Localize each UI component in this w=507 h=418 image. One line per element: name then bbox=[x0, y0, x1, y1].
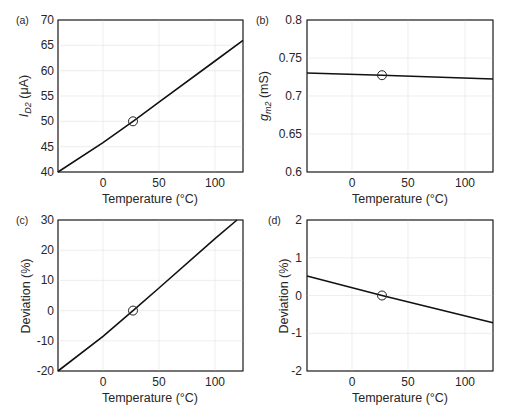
xtick-c-0: 0 bbox=[100, 375, 107, 389]
xtick-d-0: 0 bbox=[349, 375, 356, 389]
ytick-b-4: 0.8 bbox=[285, 13, 302, 27]
ytick-c-4: 20 bbox=[41, 243, 55, 257]
panel-d: -2 -1 0 1 2 0 50 100 Temperature (°C) De… bbox=[268, 213, 493, 405]
xlabel-c: Temperature (°C) bbox=[102, 391, 198, 405]
xlabel-a: Temperature (°C) bbox=[102, 192, 198, 206]
figure: 40 45 50 55 60 65 70 0 50 100 Temperatur… bbox=[0, 0, 507, 418]
panel-c: -20 -10 0 10 20 30 0 50 100 Temperature … bbox=[16, 213, 243, 405]
ylabel-b: gm2 (mS) bbox=[257, 71, 273, 121]
panel-tag-a: (a) bbox=[16, 14, 29, 26]
xtick-a-2: 100 bbox=[205, 176, 225, 190]
ytick-a-4: 60 bbox=[41, 64, 55, 78]
panel-tag-c: (c) bbox=[16, 214, 28, 226]
ytick-b-0: 0.6 bbox=[285, 165, 302, 179]
ytick-a-1: 45 bbox=[41, 140, 55, 154]
panel-b: 0.6 0.65 0.7 0.75 0.8 0 50 100 Temperatu… bbox=[256, 13, 493, 206]
ytick-d-1: -1 bbox=[291, 326, 302, 340]
ytick-d-2: 0 bbox=[295, 289, 302, 303]
ytick-d-3: 1 bbox=[295, 251, 302, 265]
xtick-d-1: 50 bbox=[401, 375, 415, 389]
ytick-d-0: -2 bbox=[291, 364, 302, 378]
ylabel-a: ID2 (μA) bbox=[17, 75, 33, 117]
xtick-c-1: 50 bbox=[152, 375, 166, 389]
ytick-a-6: 70 bbox=[41, 13, 55, 27]
panel-a: 40 45 50 55 60 65 70 0 50 100 Temperatur… bbox=[16, 13, 243, 206]
xtick-b-0: 0 bbox=[349, 176, 356, 190]
ytick-a-2: 50 bbox=[41, 114, 55, 128]
ytick-b-3: 0.75 bbox=[279, 51, 303, 65]
panel-tag-b: (b) bbox=[256, 14, 269, 26]
xlabel-b: Temperature (°C) bbox=[352, 192, 448, 206]
ytick-c-3: 10 bbox=[41, 273, 55, 287]
xtick-a-1: 50 bbox=[152, 176, 166, 190]
xtick-b-2: 100 bbox=[455, 176, 475, 190]
xlabel-d: Temperature (°C) bbox=[352, 391, 448, 405]
ytick-c-2: 0 bbox=[47, 304, 54, 318]
xtick-b-1: 50 bbox=[401, 176, 415, 190]
ytick-a-5: 65 bbox=[41, 38, 55, 52]
ylabel-d: Deviation (%) bbox=[277, 258, 291, 333]
ytick-c-5: 30 bbox=[41, 213, 55, 227]
ylabel-c: Deviation (%) bbox=[19, 258, 33, 333]
ytick-c-0: -20 bbox=[37, 364, 55, 378]
ytick-c-1: -10 bbox=[37, 334, 55, 348]
ytick-b-2: 0.7 bbox=[285, 89, 302, 103]
xtick-c-2: 100 bbox=[205, 375, 225, 389]
ytick-d-4: 2 bbox=[295, 213, 302, 227]
ytick-a-0: 40 bbox=[41, 165, 55, 179]
ytick-a-3: 55 bbox=[41, 89, 55, 103]
panel-tag-d: (d) bbox=[268, 214, 281, 226]
xtick-a-0: 0 bbox=[100, 176, 107, 190]
ytick-b-1: 0.65 bbox=[279, 127, 303, 141]
xtick-d-2: 100 bbox=[455, 375, 475, 389]
